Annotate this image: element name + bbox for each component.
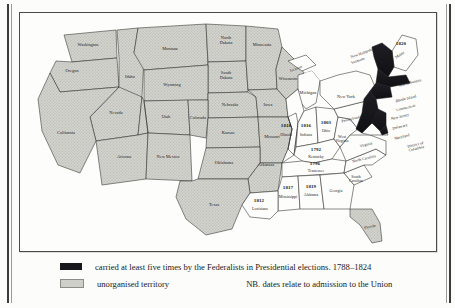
legend-row-federalist: carried at least five times by the Feder… xyxy=(19,258,435,275)
figure-page: Washington Oregon Idaho Montana North Da… xyxy=(0,0,455,308)
us-map-svg xyxy=(20,13,436,251)
map-panel: Washington Oregon Idaho Montana North Da… xyxy=(19,12,437,252)
legend-label-federalist: carried at least five times by the Feder… xyxy=(95,262,371,272)
legend-swatch-unorganised xyxy=(60,279,84,288)
legend-row-unorganised: unorganised territory NB. dates relate t… xyxy=(19,275,435,292)
legend-swatch-federalist xyxy=(60,263,82,270)
map-legend: carried at least five times by the Feder… xyxy=(19,258,435,292)
legend-note: NB. dates relate to admission to the Uni… xyxy=(246,279,392,289)
map-stage: Washington Oregon Idaho Montana North Da… xyxy=(20,13,436,251)
legend-label-unorganised: unorganised territory xyxy=(97,279,169,289)
